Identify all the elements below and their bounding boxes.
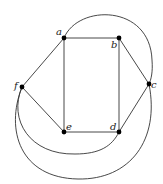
labels-group: abcdef [13, 26, 157, 132]
node-label-e: e [66, 121, 72, 132]
edge-f-a [22, 38, 64, 87]
node-label-b: b [111, 39, 117, 50]
node-a [62, 36, 67, 41]
graph-diagram: abcdef [0, 0, 163, 184]
node-label-a: a [56, 26, 62, 37]
node-d [117, 130, 122, 135]
node-f [20, 85, 25, 90]
edge-c-d [119, 84, 149, 132]
node-label-f: f [13, 80, 20, 91]
node-label-c: c [151, 79, 157, 90]
edges-group [15, 15, 152, 179]
node-label-d: d [110, 121, 116, 132]
edge-e-f [22, 87, 64, 132]
edge-a-c [64, 15, 152, 84]
edge-f-c [15, 84, 151, 179]
nodes-group [20, 36, 152, 135]
edge-b-c [119, 38, 149, 84]
